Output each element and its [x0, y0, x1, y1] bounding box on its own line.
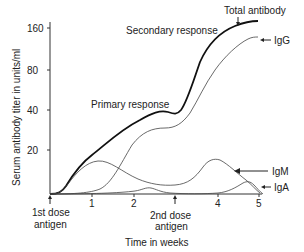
iga-label: IgA	[274, 182, 289, 193]
y-tick-40: 40	[27, 105, 39, 116]
igm-label: IgM	[272, 166, 289, 177]
antibody-response-chart: 160 80 40 20 1 2 4 5 Serum antibody tite…	[0, 0, 304, 252]
y-ticks: 160 80 40 20	[27, 23, 50, 156]
x-tick-1: 1	[89, 198, 95, 209]
first-dose-label-line1: 1st dose	[32, 207, 70, 218]
second-dose-label-line1: 2nd dose	[150, 210, 192, 221]
second-dose-label-line2: antigen	[155, 221, 188, 232]
igg-label: IgG	[274, 35, 290, 46]
first-dose-arrow-icon	[48, 195, 52, 204]
second-dose-arrow-icon	[173, 195, 177, 204]
primary-response-label: Primary response	[91, 99, 170, 110]
total-antibody-label: Total antibody	[224, 5, 286, 16]
x-axis-label: Time in weeks	[125, 237, 189, 248]
y-tick-80: 80	[27, 65, 39, 76]
secondary-response-label: Secondary response	[126, 25, 218, 36]
iga-curve	[50, 182, 263, 194]
igg-curve	[50, 37, 258, 194]
igm-arrow-icon	[234, 168, 268, 174]
igg-arrow-icon	[260, 38, 271, 42]
y-axis-label: Serum antibody titer in units/ml	[11, 49, 22, 186]
first-dose-label-line2: antigen	[34, 219, 67, 230]
iga-arrow-icon	[261, 185, 271, 189]
y-tick-160: 160	[27, 23, 44, 34]
x-tick-2: 2	[131, 198, 137, 209]
x-tick-5: 5	[256, 198, 262, 209]
y-tick-20: 20	[27, 145, 39, 156]
x-tick-4: 4	[215, 198, 221, 209]
